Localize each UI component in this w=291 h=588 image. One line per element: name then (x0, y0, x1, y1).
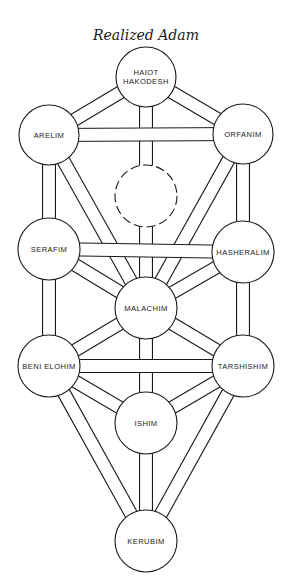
node-kerubim: KERUBIM (115, 510, 177, 572)
node-label: ARELIM (34, 131, 65, 140)
node-haiot: HAIOTHAKODESH (116, 47, 176, 107)
node-hasheralim: HASHERALIM (212, 221, 274, 283)
node-label: HAIOT (133, 68, 158, 77)
node-label: SERAFIM (31, 245, 68, 254)
node-label: HAKODESH (123, 77, 169, 86)
node-malachim: MALACHIM (115, 277, 177, 339)
node-ishim: ISHIM (115, 392, 177, 454)
node-label: HASHERALIM (216, 248, 269, 257)
node-label: BENI ELOHIM (22, 362, 75, 371)
node-tarshishim: TARSHISHIM (212, 335, 274, 397)
tree-of-life-diagram: Realized Adam HAIOTHAKODESHARELIMORFANIM… (0, 0, 291, 588)
node-label: ISHIM (134, 419, 157, 428)
node-circle (115, 165, 177, 227)
node-label: MALACHIM (124, 304, 167, 313)
node-arelim: ARELIM (19, 105, 79, 165)
node-serafim: SERAFIM (18, 218, 80, 280)
node-orfanim: ORFANIM (213, 104, 273, 164)
node-label: TARSHISHIM (218, 362, 268, 371)
node-beni: BENI ELOHIM (18, 335, 80, 397)
node-label: ORFANIM (224, 130, 261, 139)
node-hidden (115, 165, 177, 227)
diagram-title: Realized Adam (92, 27, 199, 43)
node-label: KERUBIM (127, 537, 164, 546)
